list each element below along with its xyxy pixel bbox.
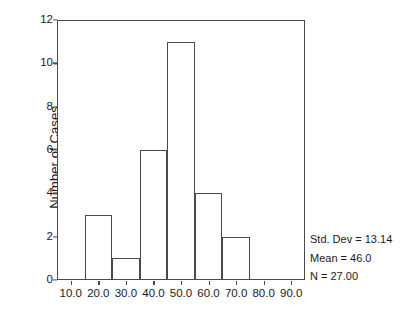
y-tick-label: 8 (13, 101, 53, 113)
x-tick-mark (264, 281, 265, 285)
x-tick-mark (98, 281, 99, 285)
x-tick-mark (181, 281, 182, 285)
x-tick-mark (291, 281, 292, 285)
y-tick-label: 6 (13, 144, 53, 156)
statistics-annotation: Std. Dev = 13.14 Mean = 46.0 N = 27.00 (310, 230, 392, 286)
y-tick-label: 0 (13, 274, 53, 286)
y-tick-mark (53, 19, 57, 20)
x-tick-mark (153, 281, 154, 285)
x-tick-mark (71, 281, 72, 285)
x-tick-label: 90.0 (269, 288, 313, 300)
y-tick-mark (53, 236, 57, 237)
mean-label: Mean = 46.0 (310, 249, 392, 268)
histogram-bar (195, 193, 223, 280)
histogram-bar (167, 42, 195, 280)
y-tick-mark (53, 149, 57, 150)
histogram-bar (140, 150, 168, 280)
histogram-bar (112, 258, 140, 280)
histogram-chart: Number of Cases 024681012 10.020.030.040… (0, 0, 405, 319)
y-tick-mark (53, 63, 57, 64)
x-tick-mark (236, 281, 237, 285)
std-dev-label: Std. Dev = 13.14 (310, 230, 392, 249)
histogram-bar (85, 215, 113, 280)
y-tick-label: 2 (13, 231, 53, 243)
y-tick-label: 4 (13, 188, 53, 200)
y-tick-mark (53, 279, 57, 280)
histogram-bar (222, 237, 250, 280)
n-label: N = 27.00 (310, 267, 392, 286)
x-tick-mark (209, 281, 210, 285)
y-tick-mark (53, 193, 57, 194)
y-tick-label: 10 (13, 58, 53, 70)
y-tick-mark (53, 106, 57, 107)
y-tick-label: 12 (13, 14, 53, 26)
x-tick-mark (126, 281, 127, 285)
